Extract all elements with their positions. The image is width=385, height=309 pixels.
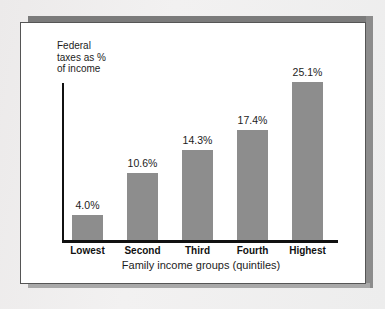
bar-value-label: 25.1% (283, 66, 332, 78)
category-label: Second (114, 245, 171, 256)
bar-value-label: 17.4% (228, 114, 277, 126)
category-label: Third (169, 245, 226, 256)
panel-shadow-right (366, 16, 373, 288)
bar[interactable] (72, 215, 103, 240)
chart-panel: Federal taxes as % of income 4.0% Lowest… (20, 22, 366, 284)
bar[interactable] (237, 130, 268, 240)
bar-value-label: 4.0% (63, 199, 112, 211)
x-axis-line (62, 240, 338, 243)
x-axis-title: Family income groups (quintiles) (62, 259, 340, 271)
bar-value-label: 14.3% (173, 134, 222, 146)
bar[interactable] (182, 150, 213, 240)
bar-value-label: 10.6% (118, 157, 167, 169)
plot-area: 4.0% Lowest 10.6% Second 14.3% Third 17.… (21, 23, 367, 285)
category-label: Lowest (59, 245, 116, 256)
bar[interactable] (292, 82, 323, 240)
category-label: Highest (279, 245, 336, 256)
y-axis-line (62, 83, 64, 241)
bar[interactable] (127, 173, 158, 240)
category-label: Fourth (224, 245, 281, 256)
